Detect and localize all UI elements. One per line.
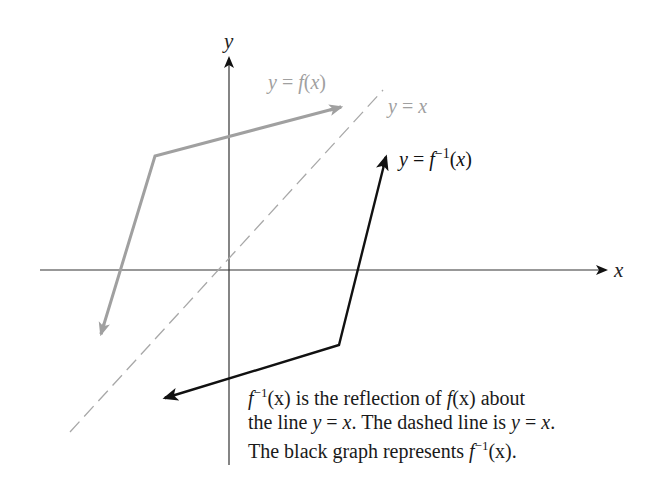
caption: f−1(x) is the reflection of f(x) about t… bbox=[248, 381, 555, 462]
f-inverse-arrow-upper bbox=[383, 157, 386, 167]
f-curve bbox=[101, 107, 341, 334]
x-axis-label: x bbox=[613, 258, 624, 282]
identity-label: y = x bbox=[386, 95, 427, 118]
f-inverse-arrow-lower bbox=[165, 395, 175, 398]
caption-line-3: The black graph represents f−1(x). bbox=[248, 434, 555, 463]
inverse-function-diagram: y x y = f(x) y = x y = f−1(x) f−1(x) is … bbox=[0, 0, 651, 482]
y-axis-label: y bbox=[222, 29, 234, 53]
caption-line-1: f−1(x) is the reflection of f(x) about bbox=[248, 381, 555, 410]
f-arrow-upper bbox=[330, 107, 341, 110]
f-arrow-lower bbox=[101, 324, 104, 334]
f-inverse-curve bbox=[165, 157, 386, 398]
f-label: y = f(x) bbox=[266, 71, 326, 94]
f-inverse-label: y = f−1(x) bbox=[397, 146, 472, 171]
caption-line-2: the line y = x. The dashed line is y = x… bbox=[248, 410, 555, 434]
